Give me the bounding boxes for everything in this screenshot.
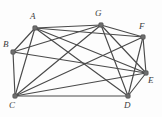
vertex-label-g: G xyxy=(95,9,102,18)
edge-layer xyxy=(13,25,146,96)
graph-canvas xyxy=(0,0,162,117)
graph-edge-be xyxy=(13,52,146,73)
graph-vertex-a xyxy=(33,26,37,30)
graph-vertex-d xyxy=(126,94,130,98)
vertex-label-d: D xyxy=(124,101,131,110)
vertex-label-e: E xyxy=(148,76,154,85)
graph-edge-bg xyxy=(13,25,101,52)
graph-vertex-g xyxy=(99,23,103,27)
graph-vertex-f xyxy=(141,35,145,39)
graph-edge-bc xyxy=(13,52,15,96)
vertex-label-f: F xyxy=(139,22,145,31)
graph-edge-ef xyxy=(143,37,146,73)
graph-edge-eg xyxy=(101,25,146,73)
vertex-label-b: B xyxy=(3,40,9,49)
vertex-label-a: A xyxy=(30,12,36,21)
vertex-label-c: C xyxy=(9,101,15,110)
graph-vertex-c xyxy=(13,94,17,98)
graph-vertex-b xyxy=(11,50,15,54)
graph-figure: ABCDEFG xyxy=(0,0,162,117)
